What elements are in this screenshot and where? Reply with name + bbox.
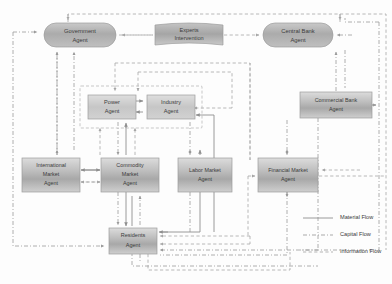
government-agent-label-2: Agent [72, 37, 88, 43]
power-agent-label-2: Agent [105, 108, 120, 114]
node-experts-intervention[interactable]: Experts Intervention [155, 23, 223, 45]
industry-agent-label-1: Industry [161, 99, 181, 105]
residents-agent-label-1: Residents [121, 232, 146, 238]
government-agent-label-1: Government [64, 28, 96, 34]
legend-item-information-flow: Information Flow [303, 248, 382, 254]
diagram-canvas: Government Agent Experts Intervention Ce… [0, 0, 392, 284]
industry-agent-label-2: Agent [164, 108, 179, 114]
node-commercial-bank-agent[interactable]: Commercial Bank Agent [300, 92, 372, 118]
node-international-market-agent[interactable]: International Market Agent [22, 158, 80, 192]
commodity-market-agent-label-1: Commodity [116, 162, 144, 168]
central-bank-agent-label-1: Central Bank [281, 28, 315, 34]
node-industry-agent[interactable]: Industry Agent [147, 95, 195, 119]
legend-item-capital-flow: Capital Flow [303, 231, 372, 237]
labor-market-agent-label-1: Labor Market [189, 167, 221, 173]
power-agent-label-1: Power [104, 99, 120, 105]
node-residents-agent[interactable]: Residents Agent [109, 228, 157, 254]
commercial-bank-agent-label-1: Commercial Bank [315, 97, 358, 103]
legend-label-information-flow: Information Flow [340, 248, 382, 254]
labor-market-agent-label-2: Agent [198, 176, 213, 182]
node-financial-market-agent[interactable]: Financial Market Agent [258, 158, 318, 192]
edge-capital-right-top [345, 18, 379, 22]
international-market-agent-label-1: International [36, 162, 66, 168]
edge-capital-fin-bottom [160, 192, 287, 255]
experts-intervention-shape[interactable] [155, 23, 223, 45]
commodity-market-agent-label-3: Agent [123, 180, 138, 186]
experts-intervention-label-2: Intervention [174, 35, 203, 41]
flow-diagram-svg: Government Agent Experts Intervention Ce… [0, 0, 392, 284]
legend-label-material-flow: Material Flow [340, 214, 374, 220]
central-bank-agent-label-2: Agent [290, 37, 306, 43]
residents-agent-label-2: Agent [126, 242, 141, 248]
legend-item-material-flow: Material Flow [303, 214, 374, 220]
financial-market-agent-shape[interactable] [258, 158, 318, 192]
legend: Material Flow Capital Flow Information F… [303, 214, 382, 254]
commodity-market-agent-label-2: Market [122, 171, 139, 177]
edge-info-top-bus [68, 14, 340, 22]
financial-market-agent-label-2: Agent [281, 176, 296, 182]
commercial-bank-agent-shape[interactable] [300, 92, 372, 118]
edge-capital-left-outer [13, 32, 104, 246]
financial-market-agent-label-1: Financial Market [268, 167, 308, 173]
legend-label-capital-flow: Capital Flow [340, 231, 372, 237]
experts-intervention-label-1: Experts [180, 27, 199, 33]
node-central-bank-agent[interactable]: Central Bank Agent [263, 23, 333, 47]
node-power-agent[interactable]: Power Agent [88, 95, 136, 119]
node-labor-market-agent[interactable]: Labor Market Agent [178, 158, 232, 192]
node-government-agent[interactable]: Government Agent [44, 23, 116, 47]
international-market-agent-label-2: Market [43, 171, 60, 177]
flow-edges-capital [13, 18, 379, 266]
international-market-agent-label-3: Agent [44, 180, 59, 186]
commercial-bank-agent-label-2: Agent [329, 106, 344, 112]
labor-market-agent-shape[interactable] [178, 158, 232, 192]
node-commodity-market-agent[interactable]: Commodity Market Agent [101, 158, 159, 192]
